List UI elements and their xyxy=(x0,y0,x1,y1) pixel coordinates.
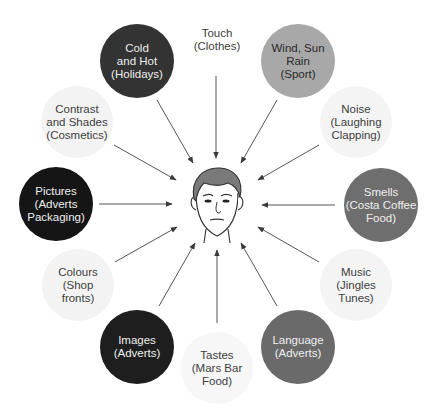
sense-label: Tastes (Mars Bar Food) xyxy=(192,349,242,388)
sense-label: Wind, Sun Rain (Sport) xyxy=(271,42,324,81)
sense-label: Touch (Clothes) xyxy=(194,27,241,53)
arrow-contrast xyxy=(114,145,176,180)
sense-label: Smells (Costa Coffee Food) xyxy=(346,186,417,225)
sense-node-colours: Colours (Shop fronts) xyxy=(42,249,114,321)
sense-node-music: Music (Jingles Tunes) xyxy=(320,249,392,321)
arrow-music xyxy=(258,227,319,262)
sense-node-smells: Smells (Costa Coffee Food) xyxy=(344,168,418,242)
sense-label: Images (Adverts) xyxy=(114,334,161,360)
sense-node-tastes: Tastes (Mars Bar Food) xyxy=(181,332,253,404)
arrow-language xyxy=(241,243,277,306)
sense-label: Colours (Shop fronts) xyxy=(58,266,98,305)
sense-node-touch: Touch (Clothes) xyxy=(181,4,253,76)
arrow-images xyxy=(159,243,195,306)
sense-label: Music (Jingles Tunes) xyxy=(336,266,376,305)
sense-label: Language (Adverts) xyxy=(272,334,323,360)
sense-node-noise: Noise (Laughing Clapping) xyxy=(320,86,392,158)
senses-diagram: Touch (Clothes)Wind, Sun Rain (Sport)Noi… xyxy=(0,0,433,418)
arrow-noise xyxy=(258,145,319,180)
sense-node-images: Images (Adverts) xyxy=(100,310,174,384)
arrow-cold xyxy=(157,100,193,163)
sense-node-contrast: Contrast and Shades (Cosmetics) xyxy=(41,86,113,158)
sense-node-language: Language (Adverts) xyxy=(261,310,335,384)
sense-node-cold: Cold and Hot (Holidays) xyxy=(100,24,174,98)
sense-label: Cold and Hot (Holidays) xyxy=(111,42,163,81)
arrow-wind xyxy=(241,100,277,163)
sense-label: Pictures (Adverts Packaging) xyxy=(27,185,85,224)
arrow-colours xyxy=(115,227,177,262)
sense-node-wind: Wind, Sun Rain (Sport) xyxy=(261,24,335,98)
sense-label: Noise (Laughing Clapping) xyxy=(330,103,381,142)
sense-node-pictures: Pictures (Adverts Packaging) xyxy=(19,167,93,241)
sense-label: Contrast and Shades (Cosmetics) xyxy=(46,103,107,142)
face-icon xyxy=(182,163,252,243)
